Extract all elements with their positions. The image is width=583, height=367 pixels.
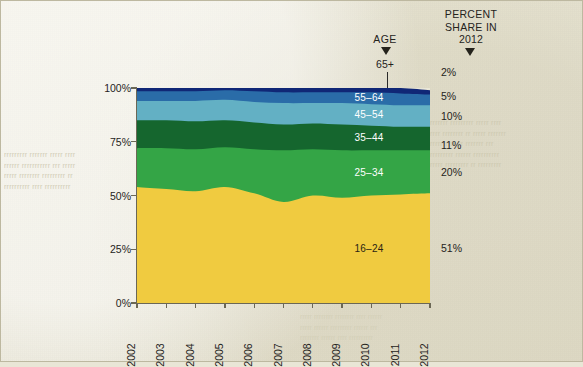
percent-pointer-arrow-icon bbox=[465, 48, 475, 56]
x-axis-tick-label: 2002 bbox=[131, 309, 144, 355]
percent-share-column-header: PERCENT SHARE IN 2012 bbox=[432, 8, 510, 46]
x-axis-tick-label-text: 2003 bbox=[154, 343, 166, 366]
y-axis-tick-label: 75% bbox=[74, 136, 131, 148]
x-axis-tick-label: 2011 bbox=[394, 309, 407, 355]
x-axis-tick bbox=[224, 303, 225, 308]
area-band-16-24 bbox=[137, 187, 430, 303]
percent-share-65+: 2% bbox=[441, 66, 501, 78]
x-axis-tick bbox=[312, 303, 313, 308]
age-column-header: AGE bbox=[355, 33, 415, 45]
age-label-65-plus: 65+ bbox=[356, 58, 414, 70]
percent-share-16-24: 51% bbox=[441, 242, 501, 254]
plot-area bbox=[137, 88, 430, 303]
percent-share-45-54: 10% bbox=[441, 110, 501, 122]
x-axis-tick-label: 2006 bbox=[248, 309, 261, 355]
x-axis-tick bbox=[166, 303, 167, 308]
x-axis-tick-label-text: 2010 bbox=[359, 343, 371, 366]
x-axis-tick-label: 2004 bbox=[189, 309, 202, 355]
x-axis-tick-label-text: 2009 bbox=[330, 343, 342, 366]
x-axis-tick-label: 2009 bbox=[336, 309, 349, 355]
x-axis-tick-label-text: 2005 bbox=[213, 343, 225, 366]
x-axis-tick bbox=[283, 303, 284, 308]
x-axis-tick-label: 2008 bbox=[306, 309, 319, 355]
x-axis-tick bbox=[371, 303, 372, 308]
percent-share-35-44: 11% bbox=[441, 139, 501, 151]
x-axis-tick-label-text: 2002 bbox=[125, 343, 137, 366]
band-label-25-34: 25–34 bbox=[354, 167, 383, 178]
x-axis-tick bbox=[254, 303, 255, 308]
x-axis-tick-label-text: 2006 bbox=[242, 343, 254, 366]
y-axis-tick-label: 100% bbox=[74, 82, 131, 94]
age-pointer-arrow-icon bbox=[381, 47, 391, 55]
x-axis-tick bbox=[341, 303, 342, 308]
x-axis-tick-label: 2003 bbox=[160, 309, 173, 355]
y-axis-tick bbox=[131, 87, 137, 88]
x-axis-tick-label-text: 2008 bbox=[301, 343, 313, 366]
x-axis-tick bbox=[429, 303, 430, 308]
stacked-area-paths bbox=[137, 88, 430, 303]
band-label-55-64: 55–64 bbox=[354, 92, 383, 103]
x-axis-tick bbox=[136, 303, 137, 308]
percent-share-55-64: 5% bbox=[441, 90, 501, 102]
y-axis-tick-label: 0% bbox=[74, 297, 131, 309]
x-axis-tick-label-text: 2007 bbox=[272, 343, 284, 366]
y-axis-tick bbox=[131, 195, 137, 196]
y-axis-tick-label: 25% bbox=[74, 243, 131, 255]
percent-share-25-34: 20% bbox=[441, 166, 501, 178]
percent-header-year: 2012 bbox=[432, 33, 510, 46]
x-axis-tick-label-text: 2011 bbox=[389, 344, 401, 367]
y-axis-tick bbox=[131, 249, 137, 250]
age-leader-line bbox=[387, 72, 388, 89]
band-label-35-44: 35–44 bbox=[354, 132, 383, 143]
percent-header-line-1: PERCENT bbox=[432, 8, 510, 21]
y-axis-tick-label: 50% bbox=[74, 190, 131, 202]
band-label-16-24: 16–24 bbox=[354, 243, 383, 254]
y-axis-tick bbox=[131, 141, 137, 142]
x-axis-tick-label: 2012 bbox=[424, 309, 437, 355]
band-label-45-54: 45–54 bbox=[354, 109, 383, 120]
x-axis-tick-label: 2005 bbox=[218, 309, 231, 355]
x-axis-tick-label-text: 2012 bbox=[418, 343, 430, 366]
x-axis-tick-label: 2007 bbox=[277, 309, 290, 355]
x-axis-tick bbox=[400, 303, 401, 308]
x-axis-tick bbox=[195, 303, 196, 308]
percent-header-line-2: SHARE IN bbox=[432, 21, 510, 34]
x-axis-tick-label: 2010 bbox=[365, 309, 378, 355]
x-axis-tick-label-text: 2004 bbox=[184, 343, 196, 366]
